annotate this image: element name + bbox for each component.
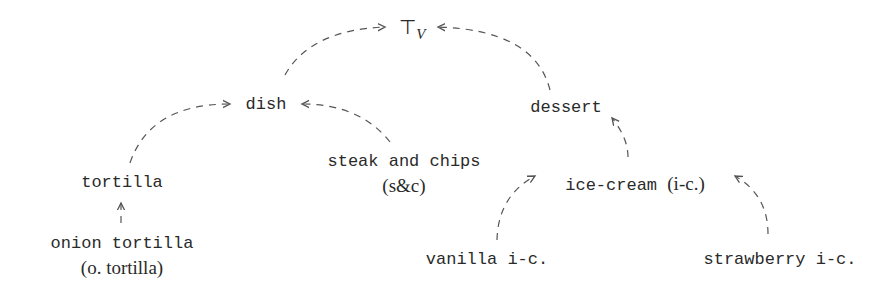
strawberry-label: strawberry i-c. <box>703 250 856 269</box>
edge-icecream-dessert <box>612 118 628 157</box>
node-dessert: dessert <box>530 96 601 120</box>
ice-cream-label: ice-cream <box>565 176 657 195</box>
node-ice-cream: ice-cream (i-c.) <box>565 172 704 198</box>
edge-tortilla-dish <box>130 104 230 163</box>
steak-and-chips-label: steak and chips <box>327 150 480 174</box>
node-vanilla: vanilla i-c. <box>426 248 548 272</box>
edge-dessert-top <box>438 27 550 90</box>
node-strawberry: strawberry i-c. <box>703 248 856 272</box>
vanilla-label: vanilla i-c. <box>426 250 548 269</box>
onion-tortilla-abbr: (o. tortilla) <box>51 256 194 280</box>
edge-vanilla-icecream <box>497 176 535 240</box>
onion-tortilla-label: onion tortilla <box>51 232 194 256</box>
tortilla-label: tortilla <box>81 173 163 192</box>
dish-label: dish <box>246 95 287 114</box>
node-top: ⊤V <box>399 15 426 41</box>
top-symbol: ⊤ <box>399 15 416 39</box>
edge-sc-dish <box>302 104 390 142</box>
node-steak-and-chips: steak and chips (s&c) <box>327 150 480 198</box>
node-dish: dish <box>246 93 287 117</box>
node-tortilla: tortilla <box>81 171 163 195</box>
steak-and-chips-abbr: (s&c) <box>327 174 480 198</box>
top-subscript: V <box>416 26 425 42</box>
edge-dish-top <box>285 27 385 75</box>
edge-strawberry-icecream <box>735 176 768 234</box>
dessert-label: dessert <box>530 98 601 117</box>
node-onion-tortilla: onion tortilla (o. tortilla) <box>51 232 194 280</box>
ice-cream-abbr: (i-c.) <box>667 173 704 194</box>
